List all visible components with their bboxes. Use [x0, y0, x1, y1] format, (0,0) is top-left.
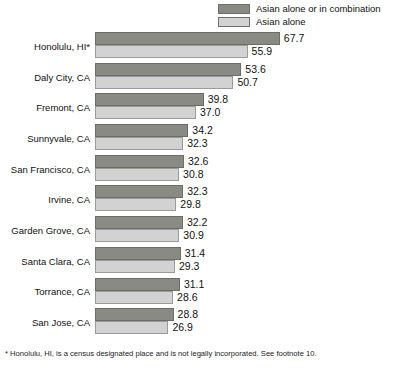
bar-value-label: 50.7 [237, 76, 257, 89]
bar-combination [95, 247, 181, 260]
bar-group: 53.650.7 [95, 63, 409, 91]
chart-row: Sunnyvale, CA34.232.3 [0, 123, 409, 154]
legend-swatch-light-icon [218, 17, 250, 27]
bar-value-label: 32.3 [187, 137, 207, 150]
bar-combination [95, 63, 241, 76]
chart-row: Santa Clara, CA31.429.3 [0, 246, 409, 277]
bar-line: 55.9 [95, 45, 409, 58]
bar-line: 31.4 [95, 247, 409, 260]
bar-line: 34.2 [95, 124, 409, 137]
category-label: San Jose, CA [0, 307, 90, 338]
bar-alone [95, 260, 175, 273]
bar-value-label: 31.1 [184, 278, 204, 291]
category-label: Fremont, CA [0, 92, 90, 123]
bar-value-label: 32.6 [188, 155, 208, 168]
chart-row: Daly City, CA53.650.7 [0, 62, 409, 93]
bar-combination [95, 216, 183, 229]
legend-label-asian-alone-or-in-combination: Asian alone or in combination [256, 4, 381, 14]
bar-value-label: 31.4 [185, 247, 205, 260]
bar-alone [95, 321, 168, 334]
bar-line: 28.6 [95, 291, 409, 304]
chart-row: Irvine, CA32.329.8 [0, 184, 409, 215]
chart-row: San Jose, CA28.826.9 [0, 307, 409, 338]
bar-value-label: 32.2 [187, 216, 207, 229]
bar-group: 67.755.9 [95, 32, 409, 60]
category-label: Daly City, CA [0, 62, 90, 93]
legend-swatch-dark-icon [218, 4, 250, 14]
chart-legend: Asian alone or in combination Asian alon… [218, 3, 408, 29]
bar-line: 32.2 [95, 216, 409, 229]
bar-group: 31.429.3 [95, 247, 409, 275]
bar-group: 28.826.9 [95, 308, 409, 336]
bar-line: 30.9 [95, 229, 409, 242]
bar-line: 26.9 [95, 321, 409, 334]
bar-alone [95, 137, 183, 150]
bar-combination [95, 124, 188, 137]
chart-row: Garden Grove, CA32.230.9 [0, 215, 409, 246]
bar-group: 32.329.8 [95, 185, 409, 213]
bar-value-label: 37.0 [200, 106, 220, 119]
bar-combination [95, 185, 183, 198]
bar-line: 32.3 [95, 185, 409, 198]
bar-alone [95, 106, 196, 119]
bar-alone [95, 76, 233, 89]
category-label: Santa Clara, CA [0, 246, 90, 277]
bar-value-label: 29.3 [179, 260, 199, 273]
bar-chart-plot: Honolulu, HI*67.755.9Daly City, CA53.650… [0, 31, 409, 339]
bar-line: 37.0 [95, 106, 409, 119]
chart-footnote: * Honolulu, HI, is a census designated p… [5, 349, 405, 359]
bar-value-label: 34.2 [192, 124, 212, 137]
bar-alone [95, 168, 179, 181]
bar-alone [95, 229, 179, 242]
bar-line: 50.7 [95, 76, 409, 89]
bar-combination [95, 32, 280, 45]
category-label: San Francisco, CA [0, 154, 90, 185]
category-label: Garden Grove, CA [0, 215, 90, 246]
category-label: Sunnyvale, CA [0, 123, 90, 154]
bar-combination [95, 93, 204, 106]
bar-alone [95, 198, 176, 211]
bar-line: 28.8 [95, 308, 409, 321]
bar-group: 32.630.8 [95, 155, 409, 183]
bar-value-label: 28.6 [177, 291, 197, 304]
chart-row: Fremont, CA39.837.0 [0, 92, 409, 123]
bar-value-label: 28.8 [178, 308, 198, 321]
bar-value-label: 39.8 [208, 93, 228, 106]
category-label: Torrance, CA [0, 277, 90, 308]
bar-group: 34.232.3 [95, 124, 409, 152]
bar-value-label: 67.7 [284, 32, 304, 45]
bar-line: 29.3 [95, 260, 409, 273]
bar-line: 32.6 [95, 155, 409, 168]
bar-value-label: 30.8 [183, 168, 203, 181]
bar-line: 31.1 [95, 278, 409, 291]
bar-line: 39.8 [95, 93, 409, 106]
bar-combination [95, 278, 180, 291]
category-label: Irvine, CA [0, 184, 90, 215]
legend-label-asian-alone: Asian alone [256, 17, 306, 27]
bar-value-label: 32.3 [187, 185, 207, 198]
bar-alone [95, 45, 248, 58]
bar-line: 30.8 [95, 168, 409, 181]
bar-combination [95, 308, 174, 321]
bar-value-label: 30.9 [183, 229, 203, 242]
bar-line: 29.8 [95, 198, 409, 211]
bar-line: 53.6 [95, 63, 409, 76]
chart-row: Honolulu, HI*67.755.9 [0, 31, 409, 62]
bar-line: 67.7 [95, 32, 409, 45]
chart-row: San Francisco, CA32.630.8 [0, 154, 409, 185]
bar-group: 32.230.9 [95, 216, 409, 244]
bar-group: 39.837.0 [95, 93, 409, 121]
bar-line: 32.3 [95, 137, 409, 150]
bar-value-label: 53.6 [245, 63, 265, 76]
category-label: Honolulu, HI* [0, 31, 90, 62]
bar-value-label: 26.9 [172, 321, 192, 334]
bar-value-label: 55.9 [252, 45, 272, 58]
chart-row: Torrance, CA31.128.6 [0, 277, 409, 308]
legend-item-asian-alone-or-in-combination: Asian alone or in combination [218, 3, 408, 14]
bar-group: 31.128.6 [95, 278, 409, 306]
legend-item-asian-alone: Asian alone [218, 16, 408, 27]
bar-value-label: 29.8 [180, 198, 200, 211]
bar-alone [95, 291, 173, 304]
bar-combination [95, 155, 184, 168]
